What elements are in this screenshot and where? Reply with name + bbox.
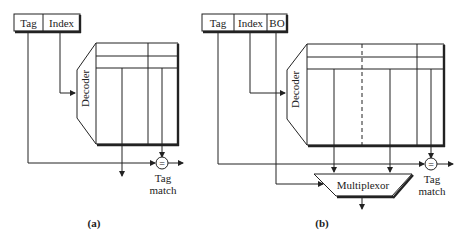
multiplexor: Multiplexor	[314, 174, 413, 209]
index-field: Index	[238, 17, 264, 29]
index-wire	[250, 31, 285, 93]
diagram-b: Tag Index BO Decoder	[202, 14, 453, 230]
index-wire	[60, 31, 75, 93]
block-offset-field: BO	[269, 17, 284, 29]
caption-a: (a)	[88, 217, 101, 230]
caption-b: (b)	[315, 217, 329, 230]
cache-array-b: Decoder	[287, 44, 445, 147]
tag-match-label: match	[419, 185, 446, 197]
tag-match-label: Tag	[424, 173, 441, 185]
cache-organization-diagram: Tag Index Decoder = Tag match	[0, 0, 466, 241]
multiplexor-label: Multiplexor	[337, 179, 390, 191]
index-field: Index	[49, 17, 75, 29]
cache-array-a: Decoder	[77, 43, 179, 146]
tag-field: Tag	[20, 17, 37, 29]
equals-icon: =	[159, 158, 165, 169]
equals-icon: =	[428, 159, 434, 170]
decoder-label: Decoder	[289, 70, 301, 108]
tag-match-label: Tag	[155, 172, 172, 184]
address-register-a: Tag Index	[14, 14, 81, 33]
decoder-label: Decoder	[79, 69, 91, 107]
address-register-b: Tag Index BO	[202, 14, 288, 33]
cache-block	[77, 43, 178, 144]
tag-match-label: match	[150, 184, 177, 196]
tag-field: Tag	[210, 17, 227, 29]
diagram-a: Tag Index Decoder = Tag match	[14, 14, 183, 230]
cache-block	[287, 44, 444, 145]
